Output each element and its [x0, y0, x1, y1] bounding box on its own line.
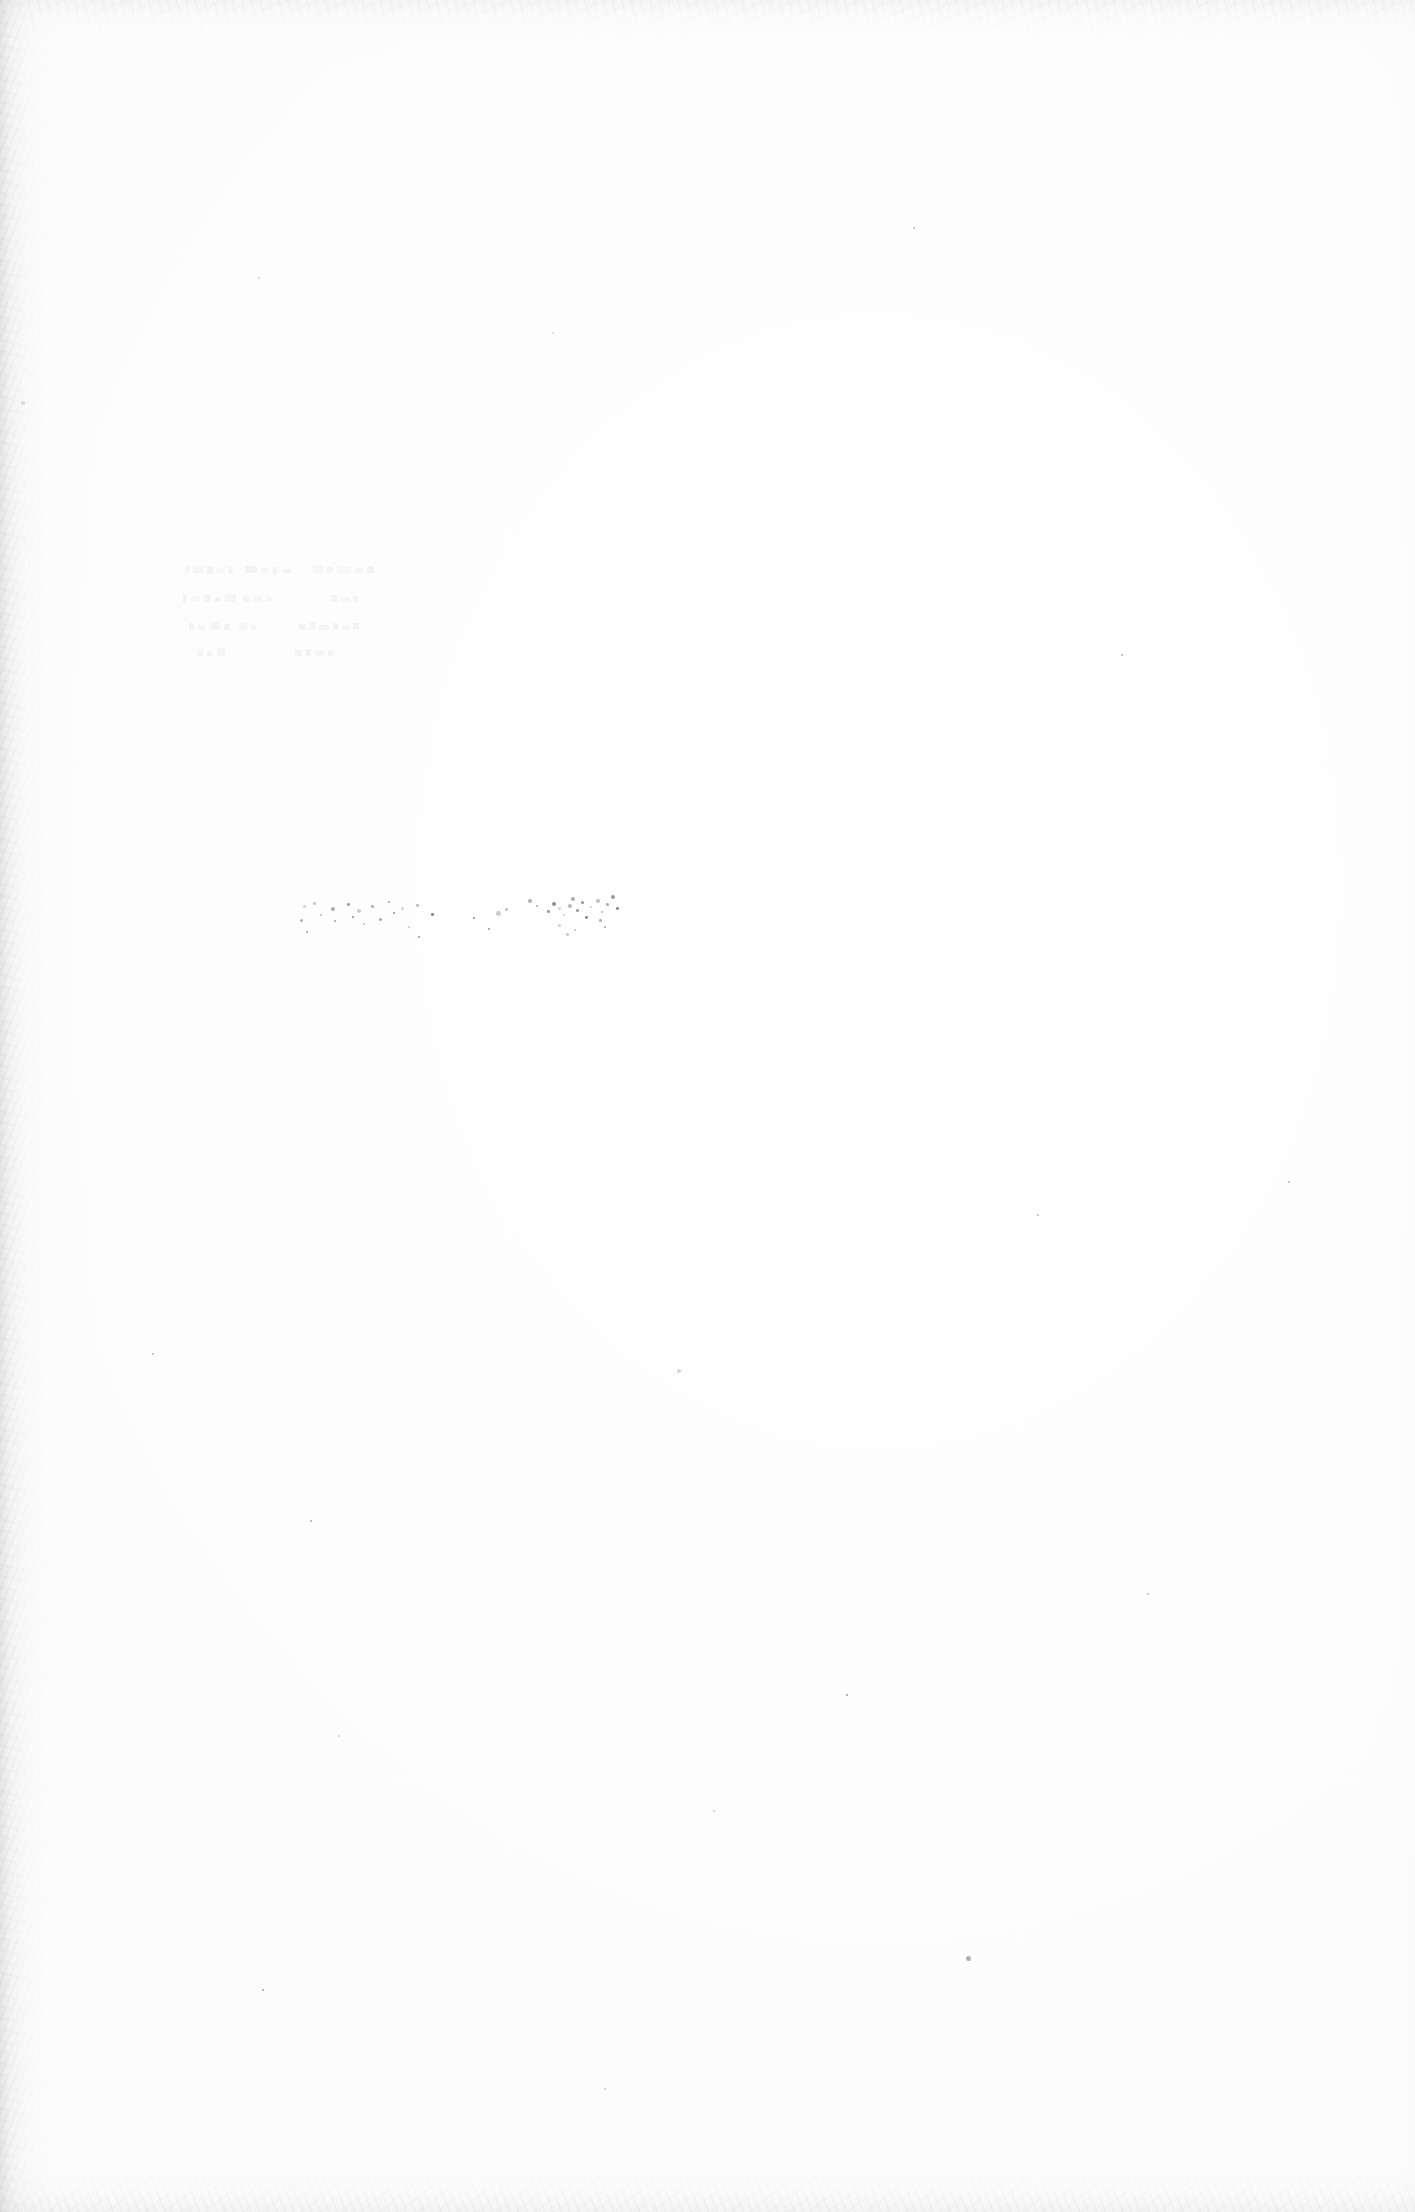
scanned-page: Blank scanned page with faint residual m… — [0, 0, 1415, 2212]
page-edge-shadows — [0, 0, 1415, 2212]
